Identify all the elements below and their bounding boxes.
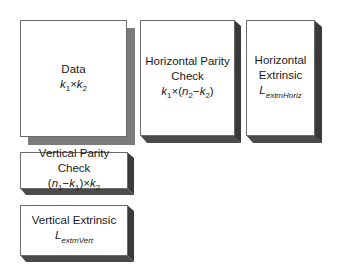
horizontal-extrinsic-block-bottom <box>246 135 322 143</box>
vertical-extrinsic-block: Vertical Extrinsic LextmVert <box>20 205 128 256</box>
horizontal-extrinsic-symbol: LextmHoriz <box>259 83 301 103</box>
data-block: Data k1×k2 <box>20 20 127 137</box>
vertical-parity-formula: (n1−k1)×k2 <box>48 176 100 195</box>
vertical-extrinsic-title: Vertical Extrinsic <box>32 213 116 228</box>
horizontal-parity-block: Horizontal Parity Check k1×(n2−k2) <box>140 20 235 136</box>
vertical-extrinsic-symbol: LextmVert <box>55 228 93 248</box>
vertical-parity-block-side <box>127 152 134 195</box>
horizontal-extrinsic-title-1: Horizontal <box>255 53 307 68</box>
horizontal-extrinsic-title-2: Extrinsic <box>259 68 302 83</box>
vertical-parity-title: Vertical Parity Check <box>21 146 127 176</box>
vertical-extrinsic-block-bottom <box>20 255 134 262</box>
horizontal-extrinsic-block: Horizontal Extrinsic LextmHoriz <box>246 20 315 136</box>
horizontal-extrinsic-block-side <box>314 20 322 143</box>
horizontal-parity-title-1: Horizontal Parity <box>145 54 229 69</box>
horizontal-parity-block-bottom <box>140 135 241 143</box>
data-block-title: Data <box>61 62 85 77</box>
horizontal-parity-formula: k1×(n2−k2) <box>161 84 213 103</box>
horizontal-parity-block-side <box>234 20 241 143</box>
vertical-parity-block: Vertical Parity Check (n1−k1)×k2 <box>20 152 128 189</box>
data-block-formula: k1×k2 <box>60 77 87 96</box>
horizontal-parity-title-2: Check <box>171 69 204 84</box>
vertical-extrinsic-block-side <box>127 205 134 262</box>
